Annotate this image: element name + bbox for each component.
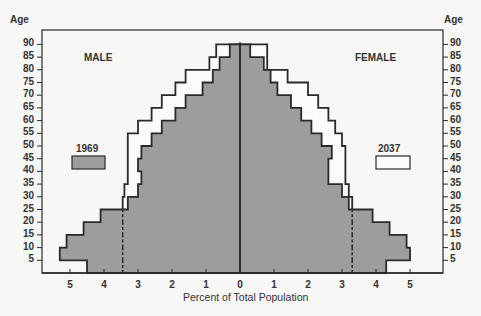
y-tick-label-left: 75 (14, 76, 34, 87)
y-tick-label-left: 55 (14, 126, 34, 137)
y-tick-label-right: 20 (450, 215, 470, 226)
x-tick-label: 0 (232, 279, 248, 290)
y-tick-label-right: 75 (450, 76, 470, 87)
x-tick-label: 5 (62, 279, 78, 290)
y-tick-label-left: 35 (14, 177, 34, 188)
y-tick-label-left: 50 (14, 139, 34, 150)
male-label: MALE (84, 52, 112, 63)
y-tick-label-right: 5 (450, 253, 470, 264)
y-tick-label-left: 5 (14, 253, 34, 264)
x-tick-label: 4 (96, 279, 112, 290)
population-pyramid-chart (0, 0, 481, 316)
x-tick-label: 3 (334, 279, 350, 290)
y-tick-label-left: 60 (14, 114, 34, 125)
y-tick-label-left: 65 (14, 101, 34, 112)
y-tick-label-left: 20 (14, 215, 34, 226)
y-tick-label-right: 90 (450, 37, 470, 48)
legend-1969-swatch (72, 156, 105, 169)
y-tick-label-right: 55 (450, 126, 470, 137)
x-tick-label: 2 (164, 279, 180, 290)
y-tick-label-right: 15 (450, 228, 470, 239)
legend-2037-swatch (376, 156, 410, 169)
y-tick-label-left: 15 (14, 228, 34, 239)
y-tick-label-left: 30 (14, 190, 34, 201)
x-tick-label: 2 (300, 279, 316, 290)
y-tick-label-left: 70 (14, 88, 34, 99)
x-tick-label: 4 (368, 279, 384, 290)
x-tick-label: 3 (130, 279, 146, 290)
x-tick-label: 1 (198, 279, 214, 290)
y-tick-label-right: 30 (450, 190, 470, 201)
x-tick-label: 1 (266, 279, 282, 290)
y-tick-label-left: 25 (14, 203, 34, 214)
y-tick-label-left: 90 (14, 37, 34, 48)
x-tick-label: 5 (402, 279, 418, 290)
y-tick-label-right: 45 (450, 152, 470, 163)
y-tick-label-right: 60 (450, 114, 470, 125)
y-axis-label-left: Age (10, 14, 29, 25)
y-tick-label-right: 25 (450, 203, 470, 214)
y-tick-label-right: 35 (450, 177, 470, 188)
legend-1969-label: 1969 (76, 143, 98, 154)
y-tick-label-right: 85 (450, 50, 470, 61)
y-axis-label-right: Age (444, 14, 463, 25)
y-tick-label-right: 65 (450, 101, 470, 112)
y-tick-label-right: 80 (450, 63, 470, 74)
female-label: FEMALE (355, 52, 396, 63)
y-tick-label-left: 85 (14, 50, 34, 61)
y-tick-label-left: 40 (14, 164, 34, 175)
y-tick-label-right: 40 (450, 164, 470, 175)
y-tick-label-left: 10 (14, 241, 34, 252)
y-tick-label-right: 50 (450, 139, 470, 150)
y-tick-label-left: 45 (14, 152, 34, 163)
y-tick-label-right: 10 (450, 241, 470, 252)
y-tick-label-left: 80 (14, 63, 34, 74)
legend-2037-label: 2037 (378, 143, 400, 154)
y-tick-label-right: 70 (450, 88, 470, 99)
x-axis-label: Percent of Total Population (183, 291, 308, 303)
